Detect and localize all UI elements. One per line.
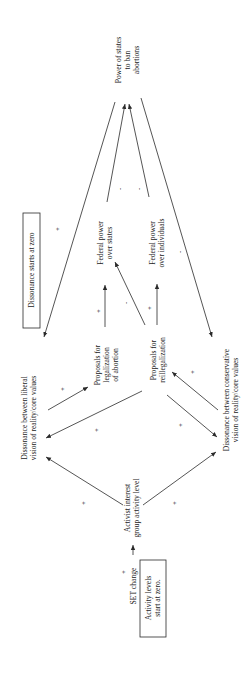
- svg-text:vision of reality/core values: vision of reality/core values: [231, 358, 240, 443]
- sign-activist-to-liberal: +: [80, 501, 88, 505]
- edge-liberal-to-legalization: [48, 387, 88, 410]
- sign-liberal-loop: +: [54, 227, 62, 231]
- node-federal-power-individuals: Federal power over individuals: [148, 218, 166, 267]
- node-proposals-legalization: Proposals for legalization of abortion: [93, 344, 120, 385]
- note-activity-levels-start-at-zero: Activity levels start at zero.: [140, 560, 166, 637]
- svg-text:to ban: to ban: [123, 50, 132, 69]
- edge-activist-to-conservative: [143, 452, 216, 505]
- sign-reillegalization-to-liberal: +: [93, 428, 101, 432]
- node-federal-power-states: Federal power over states: [96, 221, 114, 265]
- edge-legalization-to-conservative: [167, 395, 217, 437]
- svg-text:Federal power: Federal power: [96, 221, 105, 265]
- note-dissonance-starts-at-zero: Dissonance starts at zero: [23, 213, 40, 328]
- svg-text:Activity levels: Activity levels: [144, 576, 153, 621]
- svg-text:group activity level: group activity level: [132, 478, 141, 537]
- edge-fed-individuals-to-power: [129, 104, 149, 197]
- edge-conservative-to-reillegalization: [172, 372, 218, 410]
- sign-fed-states-to-power: -: [116, 187, 124, 190]
- sign-legalization-to-conservative: +: [177, 423, 185, 427]
- sign-set-to-activist: +: [120, 570, 128, 574]
- sign-reillegalization-to-fed-states: -: [122, 301, 130, 304]
- edge-activist-to-liberal: [46, 457, 123, 505]
- node-activist-activity: Activist interest group activity level: [123, 478, 141, 537]
- svg-text:Dissonance between conservativ: Dissonance between conservative: [222, 348, 231, 451]
- svg-text:Power of states: Power of states: [114, 37, 123, 83]
- node-proposals-reillegalization: Proposals for reillegalization: [149, 337, 167, 383]
- sign-reillegalization-to-fed-individuals: +: [146, 306, 154, 310]
- sign-activist-to-conservative: +: [171, 501, 179, 505]
- sign-conservative-to-reillegalization: +: [189, 370, 197, 374]
- sign-liberal-to-legalization: +: [59, 387, 67, 391]
- edge-power-to-liberal: [44, 102, 115, 337]
- svg-text:reillegalization: reillegalization: [158, 337, 167, 383]
- node-conservative-dissonance: Dissonance between conservative vision o…: [222, 348, 240, 451]
- svg-text:Dissonance between liberal: Dissonance between liberal: [20, 376, 29, 460]
- svg-text:Activist interest: Activist interest: [123, 483, 132, 532]
- sign-legalization-to-fed-states: +: [95, 309, 103, 313]
- svg-text:SET change: SET change: [129, 567, 138, 604]
- sign-power-to-conservative: -: [176, 250, 184, 253]
- svg-text:Proposals for: Proposals for: [93, 344, 102, 385]
- causal-loop-diagram: + + + + + + + + - + - - + - Power of sta…: [0, 0, 242, 677]
- svg-text:of abortion: of abortion: [111, 348, 120, 382]
- node-set-change: SET change: [129, 567, 138, 604]
- svg-text:Dissonance starts at zero: Dissonance starts at zero: [27, 232, 36, 307]
- edge-power-to-conservative: [141, 98, 212, 337]
- svg-text:legalization: legalization: [102, 347, 111, 383]
- svg-text:abortions: abortions: [132, 46, 141, 74]
- svg-text:vision of reality/core values: vision of reality/core values: [29, 376, 38, 461]
- svg-text:over individuals: over individuals: [157, 218, 166, 267]
- node-power-of-states: Power of states to ban abortions: [114, 37, 141, 83]
- svg-text:Proposals for: Proposals for: [149, 339, 158, 380]
- svg-text:over states: over states: [105, 227, 114, 259]
- svg-text:Federal power: Federal power: [148, 221, 157, 265]
- sign-fed-individuals-to-power: -: [135, 187, 143, 190]
- svg-text:start at zero.: start at zero.: [153, 579, 162, 616]
- node-liberal-dissonance: Dissonance between liberal vision of rea…: [20, 376, 38, 461]
- edge-reillegalization-to-fed-states: [115, 262, 145, 325]
